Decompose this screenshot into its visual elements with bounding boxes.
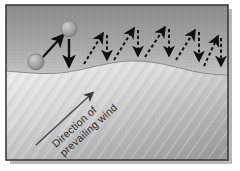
grain-resting — [28, 54, 44, 70]
figure-container: Direction of prevailing wind — [0, 0, 240, 171]
saltation-diagram: Direction of prevailing wind — [0, 0, 240, 171]
grain-lifted — [61, 21, 77, 37]
scene: Direction of prevailing wind — [6, 5, 228, 160]
